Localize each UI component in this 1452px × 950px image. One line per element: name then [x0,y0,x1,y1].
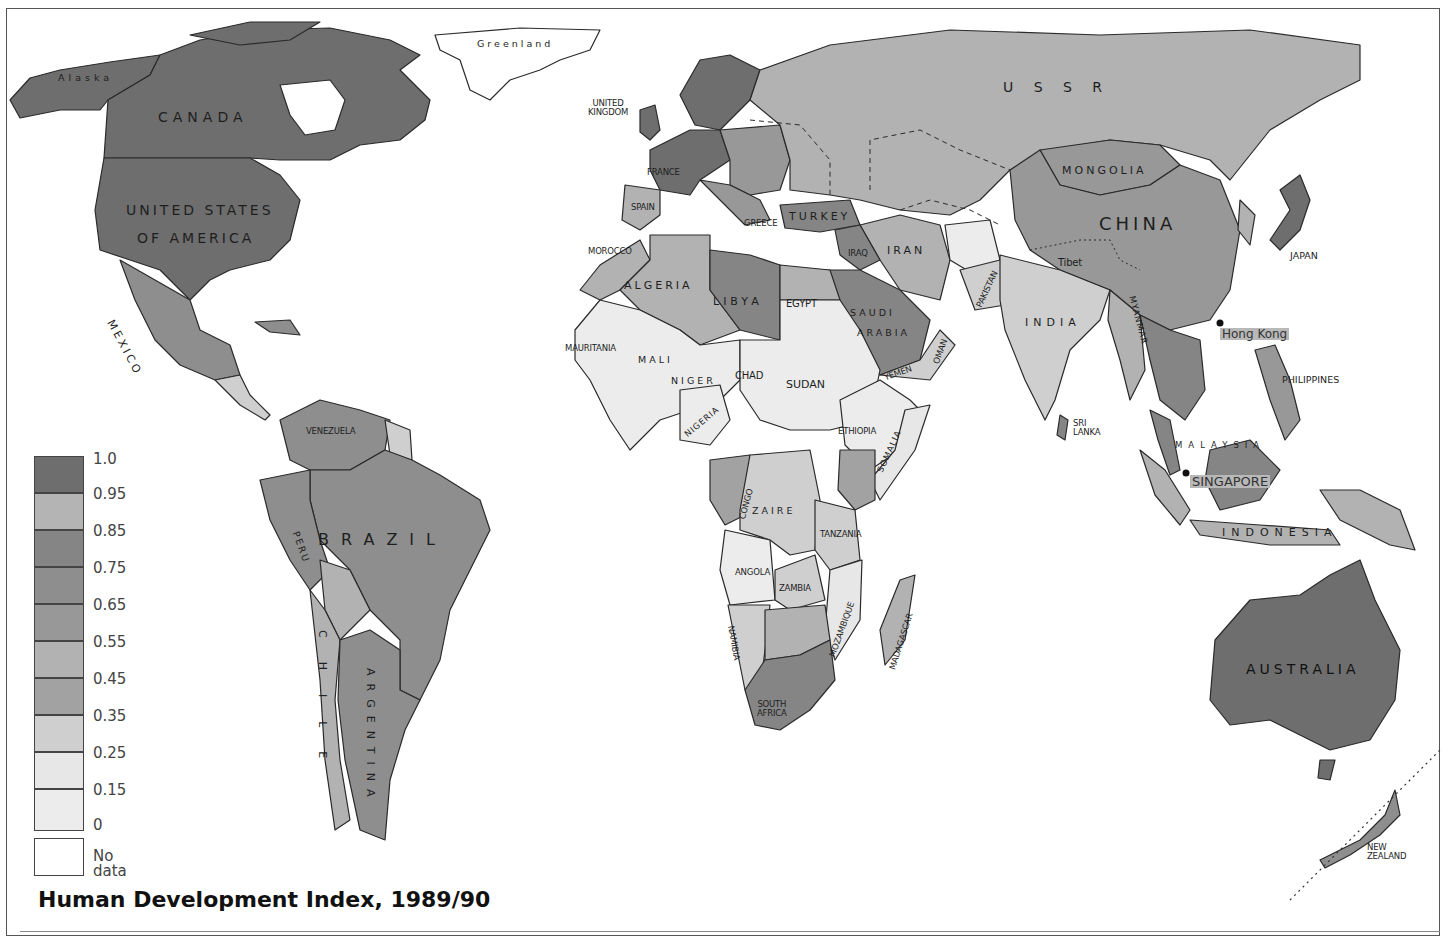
label-mauritania: MAURITANIA [565,344,616,353]
bottom-rule [20,931,1440,932]
region-uk [640,105,660,140]
legend-tick: 1.0 [93,452,117,467]
label-japan: JAPAN [1290,251,1318,261]
label-turkey: TURKEY [789,211,850,222]
region-canada [104,28,430,160]
label-malaysia: MALAYSIA [1175,441,1265,450]
label-spain: SPAIN [631,203,655,212]
legend-tick: 0.75 [93,561,126,576]
region-japan [1270,175,1310,250]
label-angola: ANGOLA [735,568,770,577]
label-sa-line2: AFRICA [757,708,787,718]
region-philippines [1255,345,1300,440]
legend-tick: 0.35 [93,709,126,724]
label-zambia: ZAMBIA [779,584,811,593]
label-canada: CANADA [158,110,248,124]
legend-swatch-3 [34,567,84,604]
singapore-marker [1183,470,1190,477]
region-cuba [255,320,300,335]
label-sri-lanka-line2: LANKA [1073,427,1100,437]
label-tanzania: TANZANIA [820,530,861,539]
label-hong-kong: Hong Kong [1220,328,1289,340]
label-alaska: Alaska [58,73,113,83]
legend-swatch-4 [34,604,84,641]
label-china: CHINA [1099,215,1176,233]
label-zaire: ZAIRE [752,506,795,516]
label-libya: LIBYA [713,296,763,307]
legend-tick: 0.15 [93,783,126,798]
map-title: Human Development Index, 1989/90 [38,887,490,912]
label-morocco: MOROCCO [588,247,632,256]
label-brazil: BRAZIL [318,532,447,548]
legend-swatch-8 [34,752,84,789]
legend-tick: 0.25 [93,746,126,761]
region-thailand-indochina [1140,315,1205,420]
label-saudi-line1: SAUDI [850,308,895,318]
legend-swatch-5 [34,641,84,678]
region-tasmania [1318,760,1335,780]
label-iraq: IRAQ [848,249,868,258]
label-niger: NIGER [671,376,716,386]
region-usa [95,158,300,300]
legend-swatch-7 [34,715,84,752]
label-usa-line2: OF AMERICA [137,231,254,245]
legend-swatch-no-data [34,838,84,876]
region-korea [1238,200,1255,245]
label-nz-line2: ZEALAND [1367,851,1406,861]
legend-tick: 0 [93,818,103,833]
region-eastern-europe [720,125,790,195]
legend-tick: 0.85 [93,524,126,539]
region-scandinavia [680,55,760,130]
inset-divider-line [1290,750,1440,900]
label-algeria: ALGERIA [624,280,693,291]
region-kenya [838,450,875,510]
label-france: FRANCE [647,168,680,177]
label-new-zealand: NEWZEALAND [1367,843,1406,861]
legend-tick: 0.65 [93,598,126,613]
label-chile: CHILE [317,630,328,782]
legend-swatch-9 [34,789,84,831]
label-mali: MALI [638,355,673,365]
label-greenland: Greenland [477,39,553,49]
label-ethiopia: ETHIOPIA [838,427,876,436]
label-ussr: U S S R [1003,80,1110,94]
legend-no-data-label: No data [93,849,127,879]
region-sri-lanka [1057,415,1068,440]
label-chad: CHAD [735,371,763,382]
label-united-kingdom: UNITEDKINGDOM [588,99,628,117]
label-tibet: Tibet [1058,258,1082,269]
label-venezuela: VENEZUELA [306,427,355,436]
label-australia: AUSTRALIA [1246,662,1360,676]
region-central-america [215,375,270,420]
label-argentina: ARGENTINA [365,668,376,805]
label-singapore: SINGAPORE [1190,475,1270,488]
region-australia [1210,560,1400,750]
label-indonesia: INDONESIA [1222,527,1338,538]
label-egypt: EGYPT [786,299,817,310]
label-india: INDIA [1025,317,1081,328]
hong-kong-marker [1217,320,1224,327]
label-usa-line1: UNITED STATES [126,203,274,217]
label-iran: IRAN [887,245,925,256]
legend-swatch-2 [34,530,84,567]
label-uk-line2: KINGDOM [588,107,628,117]
legend-tick: 0.55 [93,635,126,650]
label-philippines: PHILIPPINES [1282,375,1339,385]
label-saudi-line2: ARABIA [857,328,910,338]
legend-swatch-1 [34,493,84,530]
label-greece: GREECE [744,219,777,228]
label-mongolia: MONGOLIA [1062,165,1146,176]
legend-tick: 0.45 [93,672,126,687]
label-south-africa: SOUTHAFRICA [757,700,787,718]
legend-swatch-0 [34,456,84,493]
legend-swatch-6 [34,678,84,715]
label-sudan: SUDAN [786,379,825,390]
legend-tick: 0.95 [93,487,126,502]
label-sri-lanka: SRILANKA [1073,419,1100,437]
